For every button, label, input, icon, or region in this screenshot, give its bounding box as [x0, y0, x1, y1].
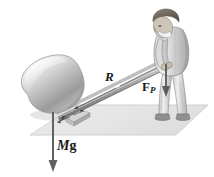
gravity-symbol: g [69, 138, 76, 153]
force-symbol: F [142, 79, 150, 94]
person [153, 9, 190, 121]
physics-lever-figure: R FP Mg r [0, 0, 214, 177]
force-subscript: P [150, 85, 156, 95]
boulder [21, 55, 84, 113]
label-fulcrum-arm-r: r [62, 114, 65, 121]
label-lever-arm-R: R [105, 70, 114, 83]
label-applied-force: FP [142, 80, 155, 95]
label-weight: Mg [57, 139, 76, 153]
mass-symbol: M [57, 138, 69, 153]
figure-canvas [0, 0, 214, 177]
